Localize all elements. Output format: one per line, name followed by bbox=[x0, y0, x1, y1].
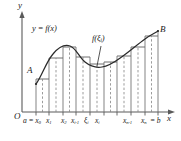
sample-value-label: f(ξi) bbox=[92, 34, 105, 43]
sample-value-leader-line bbox=[97, 46, 101, 66]
tick-label-xi-minus-1-sub: i-1 bbox=[74, 120, 79, 125]
function-label: y = f(x) bbox=[32, 24, 57, 33]
x-axis-label: x bbox=[167, 114, 171, 123]
y-axis-arrowhead bbox=[19, 11, 24, 18]
tick-label-x2-sub: 2 bbox=[64, 120, 66, 125]
tick-label-xn-sub: n bbox=[144, 120, 146, 125]
tick-label-x2: x2 bbox=[61, 117, 66, 126]
tick-label-xi: xi bbox=[95, 117, 99, 126]
tick-label-xi-sample: ξi bbox=[84, 117, 88, 126]
sample-value-main: f(ξ bbox=[92, 33, 101, 43]
point-a-label: A bbox=[27, 66, 32, 75]
tick-label-x0: a = x0 bbox=[23, 117, 41, 126]
tick-label-b: = b bbox=[150, 117, 161, 125]
riemann-sum-figure: y x O y = f(x) f(ξi) A B a = x0 x1 x2 xi… bbox=[0, 0, 181, 141]
sample-value-close: ) bbox=[102, 33, 105, 43]
curve-endpoint-b-dot bbox=[157, 30, 159, 32]
origin-label: O bbox=[14, 112, 20, 121]
tick-label-xn: xn bbox=[141, 117, 146, 126]
point-b-label: B bbox=[160, 25, 165, 34]
tick-label-xi-sample-sub: i bbox=[87, 120, 88, 125]
tick-label-xi-sub: i bbox=[98, 120, 99, 125]
tick-label-xn-minus-1: xn-1 bbox=[123, 117, 132, 126]
tick-label-xn-minus-1-sub: n-1 bbox=[126, 120, 132, 125]
curve-endpoint-a-dot bbox=[35, 83, 37, 85]
tick-label-x0-main: a = x bbox=[23, 116, 39, 125]
tick-label-x0-sub: 0 bbox=[39, 120, 41, 125]
tick-label-xi-minus-1: xi-1 bbox=[71, 117, 79, 126]
tick-label-x1: x1 bbox=[46, 117, 51, 126]
tick-label-x1-sub: 1 bbox=[49, 120, 51, 125]
y-axis-label: y bbox=[18, 1, 22, 10]
